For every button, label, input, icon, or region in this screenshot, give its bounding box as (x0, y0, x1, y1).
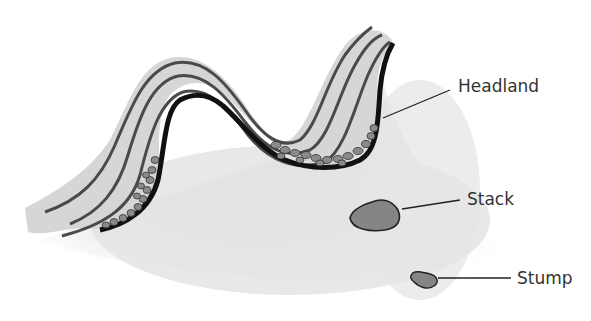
coastal-landforms-diagram (0, 0, 591, 321)
stack-label: Stack (467, 191, 514, 208)
stump-label: Stump (517, 270, 573, 287)
headland-label: Headland (458, 78, 539, 95)
